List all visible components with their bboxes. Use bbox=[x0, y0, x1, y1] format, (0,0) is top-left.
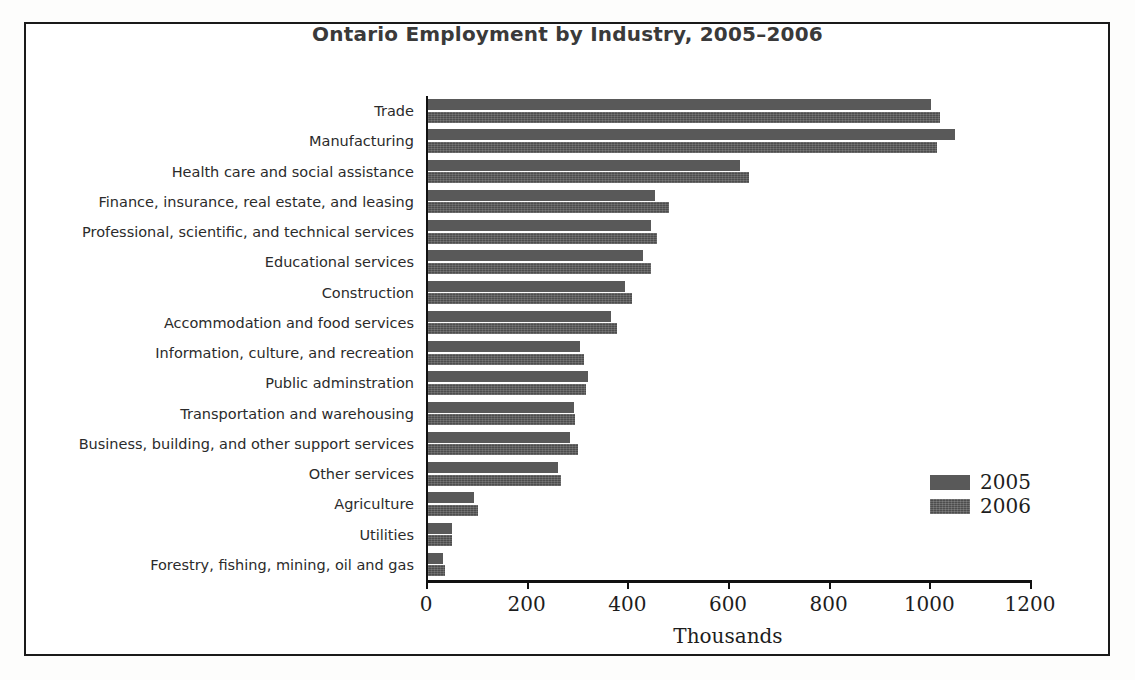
category-label: Trade bbox=[374, 103, 414, 119]
bar-2006[interactable] bbox=[428, 293, 632, 304]
bar-2006[interactable] bbox=[428, 475, 561, 486]
table-row: Information, culture, and recreation bbox=[426, 338, 1030, 368]
category-label: Accommodation and food services bbox=[164, 315, 414, 331]
bar-2005[interactable] bbox=[428, 129, 955, 140]
bar-2005[interactable] bbox=[428, 432, 570, 443]
x-tick-label: 400 bbox=[608, 592, 646, 616]
bar-2006[interactable] bbox=[428, 233, 657, 244]
bar-2005[interactable] bbox=[428, 371, 588, 382]
x-tick-label: 600 bbox=[709, 592, 747, 616]
table-row: Manufacturing bbox=[426, 126, 1030, 156]
bar-2006[interactable] bbox=[428, 414, 575, 425]
table-row: Finance, insurance, real estate, and lea… bbox=[426, 187, 1030, 217]
bar-2005[interactable] bbox=[428, 311, 611, 322]
bar-2005[interactable] bbox=[428, 281, 625, 292]
bar-2005[interactable] bbox=[428, 462, 558, 473]
bar-2006[interactable] bbox=[428, 142, 937, 153]
bar-2006[interactable] bbox=[428, 354, 584, 365]
bar-2005[interactable] bbox=[428, 160, 740, 171]
bar-2006[interactable] bbox=[428, 202, 669, 213]
bar-2006[interactable] bbox=[428, 323, 617, 334]
x-tick-label: 1200 bbox=[1005, 592, 1056, 616]
bar-2006[interactable] bbox=[428, 172, 749, 183]
category-label: Construction bbox=[322, 285, 414, 301]
table-row: Transportation and warehousing bbox=[426, 399, 1030, 429]
series-2006-swatch-icon bbox=[930, 499, 970, 514]
bar-2006[interactable] bbox=[428, 263, 651, 274]
bar-2005[interactable] bbox=[428, 99, 931, 110]
bar-2005[interactable] bbox=[428, 402, 574, 413]
table-row: Utilities bbox=[426, 520, 1030, 550]
category-label: Public adminstration bbox=[265, 375, 414, 391]
category-label: Other services bbox=[309, 466, 414, 482]
category-label: Manufacturing bbox=[309, 133, 414, 149]
category-label: Business, building, and other support se… bbox=[79, 436, 414, 452]
x-tick bbox=[728, 580, 730, 589]
x-tick bbox=[829, 580, 831, 589]
x-tick-label: 200 bbox=[508, 592, 546, 616]
bar-2006[interactable] bbox=[428, 444, 578, 455]
table-row: Public adminstration bbox=[426, 368, 1030, 398]
bar-2005[interactable] bbox=[428, 250, 643, 261]
x-tick bbox=[1030, 580, 1032, 589]
x-tick bbox=[929, 580, 931, 589]
category-label: Professional, scientific, and technical … bbox=[82, 224, 414, 240]
x-tick-label: 1000 bbox=[904, 592, 955, 616]
bar-2005[interactable] bbox=[428, 492, 474, 503]
table-row: Accommodation and food services bbox=[426, 308, 1030, 338]
chart-title: Ontario Employment by Industry, 2005–200… bbox=[0, 22, 1135, 46]
x-tick-label: 800 bbox=[810, 592, 848, 616]
table-row: Educational services bbox=[426, 247, 1030, 277]
bar-2005[interactable] bbox=[428, 220, 651, 231]
x-axis-label: Thousands bbox=[426, 624, 1030, 648]
category-label: Forestry, fishing, mining, oil and gas bbox=[150, 557, 414, 573]
legend-item-2005[interactable]: 2005 bbox=[930, 470, 1060, 494]
chart-figure: Ontario Employment by Industry, 2005–200… bbox=[0, 0, 1135, 680]
category-label: Health care and social assistance bbox=[172, 164, 414, 180]
x-tick bbox=[627, 580, 629, 589]
table-row: Professional, scientific, and technical … bbox=[426, 217, 1030, 247]
chart-legend: 2005 2006 bbox=[930, 470, 1060, 518]
x-tick bbox=[426, 580, 428, 589]
bar-2005[interactable] bbox=[428, 523, 452, 534]
category-label: Utilities bbox=[359, 527, 414, 543]
bar-2005[interactable] bbox=[428, 341, 580, 352]
table-row: Health care and social assistance bbox=[426, 157, 1030, 187]
x-tick-label: 0 bbox=[420, 592, 433, 616]
category-label: Educational services bbox=[265, 254, 414, 270]
bar-2006[interactable] bbox=[428, 535, 452, 546]
bar-2006[interactable] bbox=[428, 384, 586, 395]
table-row: Forestry, fishing, mining, oil and gas bbox=[426, 550, 1030, 580]
category-label: Information, culture, and recreation bbox=[155, 345, 414, 361]
category-label: Finance, insurance, real estate, and lea… bbox=[99, 194, 414, 210]
legend-label-2006: 2006 bbox=[980, 494, 1031, 518]
category-label: Agriculture bbox=[334, 496, 414, 512]
table-row: Construction bbox=[426, 278, 1030, 308]
x-tick bbox=[527, 580, 529, 589]
bar-2006[interactable] bbox=[428, 112, 940, 123]
bar-2005[interactable] bbox=[428, 190, 655, 201]
bar-2005[interactable] bbox=[428, 553, 443, 564]
legend-label-2005: 2005 bbox=[980, 470, 1031, 494]
table-row: Trade bbox=[426, 96, 1030, 126]
table-row: Business, building, and other support se… bbox=[426, 429, 1030, 459]
bar-2006[interactable] bbox=[428, 565, 445, 576]
legend-item-2006[interactable]: 2006 bbox=[930, 494, 1060, 518]
series-2005-swatch-icon bbox=[930, 475, 970, 490]
bar-2006[interactable] bbox=[428, 505, 478, 516]
category-label: Transportation and warehousing bbox=[180, 406, 414, 422]
